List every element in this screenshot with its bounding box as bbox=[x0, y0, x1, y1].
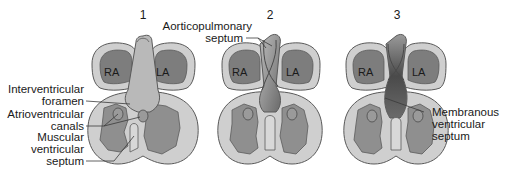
atrium-label-ra-1: RA bbox=[104, 66, 120, 78]
label-membranous-line2: ventricular bbox=[432, 118, 485, 130]
label-muscular-septum-line2: ventricular bbox=[31, 143, 84, 155]
atrium-label-la-3: LA bbox=[412, 66, 426, 78]
panel-3: 3 RA LA Membranous ventricular septum bbox=[344, 8, 500, 164]
label-aorticopulmonary-line1: Aorticopulmonary bbox=[163, 20, 253, 32]
label-interventricular-foramen-line1: Interventricular bbox=[8, 83, 84, 95]
atrium-label-ra-2: RA bbox=[232, 66, 248, 78]
label-membranous-line1: Membranous bbox=[432, 106, 499, 118]
muscular-septum-1 bbox=[130, 124, 138, 153]
panel-number-3: 3 bbox=[394, 8, 401, 22]
panel-number-2: 2 bbox=[267, 8, 274, 22]
panel-number-1: 1 bbox=[140, 8, 147, 22]
label-muscular-septum-line3: septum bbox=[46, 155, 84, 167]
label-aorticopulmonary-line2: septum bbox=[205, 32, 243, 44]
label-interventricular-foramen-line2: foramen bbox=[42, 95, 84, 107]
label-muscular-septum-line1: Muscular bbox=[37, 131, 84, 143]
label-av-canals-line1: Atrioventricular bbox=[7, 108, 84, 120]
heart-septation-diagram: 1 RA LA Interventricular foramen Atriove… bbox=[0, 0, 505, 178]
atrium-label-la-2: LA bbox=[286, 66, 300, 78]
label-membranous-line3: septum bbox=[432, 130, 470, 142]
atrium-label-la-1: LA bbox=[156, 66, 170, 78]
atrium-label-ra-3: RA bbox=[358, 66, 374, 78]
